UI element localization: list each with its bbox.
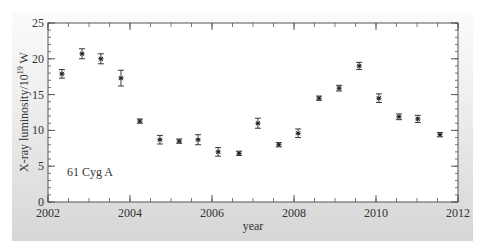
- star-annotation: 61 Cyg A: [67, 165, 113, 179]
- x-tick-label: 2004: [118, 206, 142, 220]
- y-tick-label: 25: [32, 16, 44, 30]
- x-axis-tick-labels: 200220042006200820102012: [36, 206, 470, 220]
- x-tick-label: 2006: [200, 206, 224, 220]
- x-tick-label: 2008: [282, 206, 306, 220]
- data-point: [176, 139, 182, 143]
- data-point: [236, 151, 242, 155]
- y-tick-label: 20: [32, 52, 44, 66]
- x-tick-label: 2012: [446, 206, 470, 220]
- data-point: [396, 114, 402, 120]
- x-axis-label: year: [243, 219, 264, 233]
- data-point: [276, 143, 282, 147]
- y-axis-label-unit: W: [17, 51, 31, 66]
- y-axis-label: X-ray luminosity/1019 W: [16, 51, 31, 171]
- x-tick-label: 2010: [364, 206, 388, 220]
- y-tick-label: 15: [32, 88, 44, 102]
- y-tick-label: 5: [38, 159, 44, 173]
- y-axis-tick-labels: 0510152025: [32, 16, 44, 209]
- data-point: [336, 85, 342, 91]
- y-axis-label-main: X-ray luminosity/10: [17, 74, 31, 172]
- data-point: [437, 133, 443, 137]
- y-axis-label-exponent: 19: [16, 66, 25, 74]
- y-tick-label: 0: [38, 195, 44, 209]
- chart: 200220042006200820102012 0510152025 61 C…: [0, 0, 486, 250]
- y-tick-label: 10: [32, 123, 44, 137]
- data-point: [137, 119, 143, 123]
- data-point: [316, 96, 322, 100]
